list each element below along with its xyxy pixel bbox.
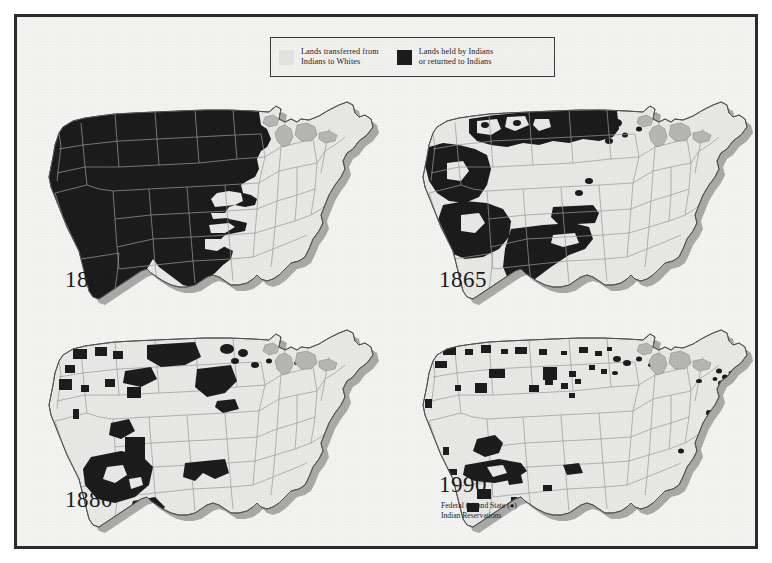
- legend-item-held: Lands held by Indians or returned to Ind…: [397, 47, 494, 68]
- legend-swatch-light: [279, 50, 294, 65]
- year-label-1990: 1990: [439, 472, 487, 498]
- legend-label-held: Lands held by Indians or returned to Ind…: [419, 47, 494, 68]
- year-label-1880: 1880: [65, 487, 113, 513]
- legend-item-transferred: Lands transferred from Indians to Whites: [279, 47, 379, 68]
- year-label-1850: 1850: [65, 267, 113, 293]
- legend-label-transferred: Lands transferred from Indians to Whites: [301, 47, 379, 68]
- map-legend: Lands transferred from Indians to Whites…: [270, 37, 555, 77]
- reservation-type-note: Federal (■) and State (●) Indian Reserva…: [441, 501, 517, 520]
- legend-swatch-dark: [397, 50, 412, 65]
- map-panel-1880: [29, 317, 389, 549]
- year-label-1865: 1865: [439, 267, 487, 293]
- figure-frame: Lands transferred from Indians to Whites…: [14, 14, 758, 549]
